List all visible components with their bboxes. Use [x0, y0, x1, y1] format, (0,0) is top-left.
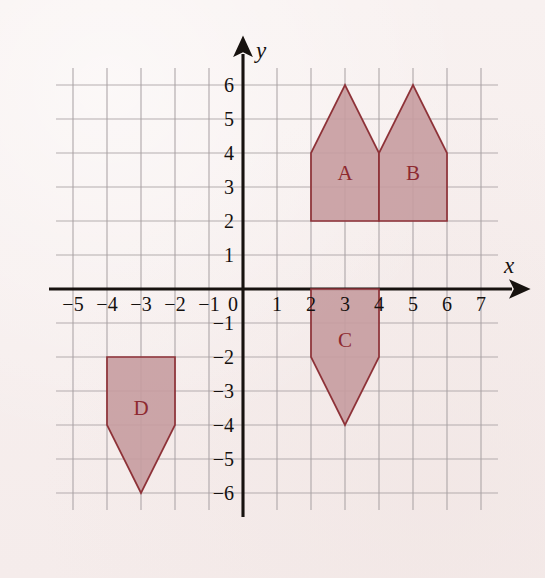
y-tick-label: 4	[224, 142, 234, 164]
x-tick-label: 5	[408, 293, 418, 315]
x-tick-label: −4	[96, 293, 117, 315]
shape-a	[311, 85, 379, 221]
y-tick-label: −1	[213, 312, 234, 334]
x-tick-label: 2	[306, 293, 316, 315]
coordinate-plane-svg: −5−4−3−2−101234567654321−1−2−3−4−5−6 ABC…	[0, 0, 545, 578]
x-tick-label: −3	[130, 293, 151, 315]
x-tick-label: 7	[476, 293, 486, 315]
x-tick-label: 6	[442, 293, 452, 315]
coordinate-plane-figure: −5−4−3−2−101234567654321−1−2−3−4−5−6 ABC…	[0, 0, 545, 578]
shape-label-c: C	[338, 328, 352, 352]
x-axis-label: x	[503, 253, 515, 278]
y-tick-label: −3	[213, 380, 234, 402]
y-tick-label: 2	[224, 210, 234, 232]
y-tick-label: −6	[213, 482, 234, 504]
y-tick-label: 5	[224, 108, 234, 130]
shape-label-a: A	[337, 161, 353, 185]
y-tick-label: −4	[213, 414, 234, 436]
y-axis-label: y	[254, 38, 267, 63]
x-tick-label: −5	[62, 293, 83, 315]
y-tick-label: 1	[224, 244, 234, 266]
y-tick-label: −5	[213, 448, 234, 470]
x-tick-label: −2	[164, 293, 185, 315]
x-tick-label: 3	[340, 293, 350, 315]
y-tick-label: −2	[213, 346, 234, 368]
x-tick-label: 4	[374, 293, 384, 315]
y-tick-label: 3	[224, 176, 234, 198]
shape-b	[379, 85, 447, 221]
shape-label-d: D	[133, 396, 148, 420]
x-tick-label: 1	[272, 293, 282, 315]
shape-label-b: B	[406, 161, 420, 185]
y-tick-label: 6	[224, 74, 234, 96]
shape-d	[107, 357, 175, 493]
